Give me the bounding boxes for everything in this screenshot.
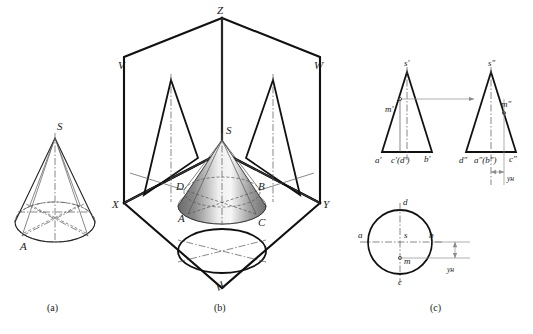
panel-b-label-d: D	[175, 180, 184, 192]
side-view-label-s-dprime: s″	[488, 58, 496, 68]
panel-a-label-a: A	[19, 240, 27, 252]
panel-a-pictorial-cone: S A (a)	[15, 120, 95, 314]
front-view-label-s-prime: s′	[404, 58, 411, 68]
front-view-label-cd-prime: c′(d′)	[391, 155, 409, 165]
front-view-label-b-prime: b′	[424, 154, 432, 164]
panel-b-h-projection-circle	[178, 229, 266, 273]
caption-c: (c)	[430, 302, 441, 314]
top-view-label-m: m	[404, 256, 411, 266]
panel-b-projection-box: Z X Y V W H S A B C D (b)	[111, 4, 331, 314]
side-view-label-ab-dprime: a″(b″)	[474, 155, 497, 165]
top-view-label-a: a	[358, 230, 363, 240]
caption-a: (a)	[47, 302, 58, 314]
top-view-label-c: c	[398, 277, 402, 287]
side-view-label-d-dprime: d″	[459, 155, 468, 165]
panel-a-chord-4	[24, 205, 80, 233]
panel-a-chord-3	[30, 205, 86, 233]
top-view-label-b: b	[429, 230, 434, 240]
panel-c-front-view: s′ m′ a′ c′(d′) b′	[375, 58, 474, 165]
panel-b-label-b: B	[258, 180, 265, 192]
panel-a-generatrix-sa	[30, 138, 55, 205]
side-view-label-c-dprime: c″	[509, 154, 517, 164]
panel-c-side-view: s″ m″ d″ a″(b″) c″ yʜ	[459, 58, 517, 185]
panel-a-generatrix-sb	[55, 138, 80, 205]
front-view-label-m-prime: m′	[385, 104, 394, 114]
panel-b-label-s: S	[226, 124, 232, 136]
panel-b-label-w: W	[314, 59, 324, 71]
front-view-label-a-prime: a′	[375, 155, 383, 165]
top-view-label-s: s	[404, 230, 408, 240]
drawing-canvas: S A (a)	[0, 0, 533, 334]
technical-drawing-figure: S A (a)	[0, 0, 533, 334]
panel-b-label-a: A	[177, 212, 185, 224]
side-view-label-yh: yʜ	[506, 174, 514, 183]
caption-b: (b)	[214, 302, 226, 314]
panel-b-label-x: X	[111, 198, 120, 210]
panel-b-label-z: Z	[217, 4, 224, 16]
panel-c-top-view: d a s b m c yʜ	[358, 197, 470, 287]
top-view-label-yh: yʜ	[446, 265, 454, 274]
top-view-label-d: d	[403, 197, 408, 207]
panel-b-label-c: C	[258, 216, 266, 228]
panel-c-orthographic-views: s′ m′ a′ c′(d′) b′ s″ m″ d″ a″(b″) c″ yʜ	[358, 58, 517, 314]
side-view-label-m-dprime: m″	[501, 99, 511, 109]
panel-b-label-y: Y	[323, 198, 331, 210]
panel-a-label-s: S	[57, 120, 63, 132]
